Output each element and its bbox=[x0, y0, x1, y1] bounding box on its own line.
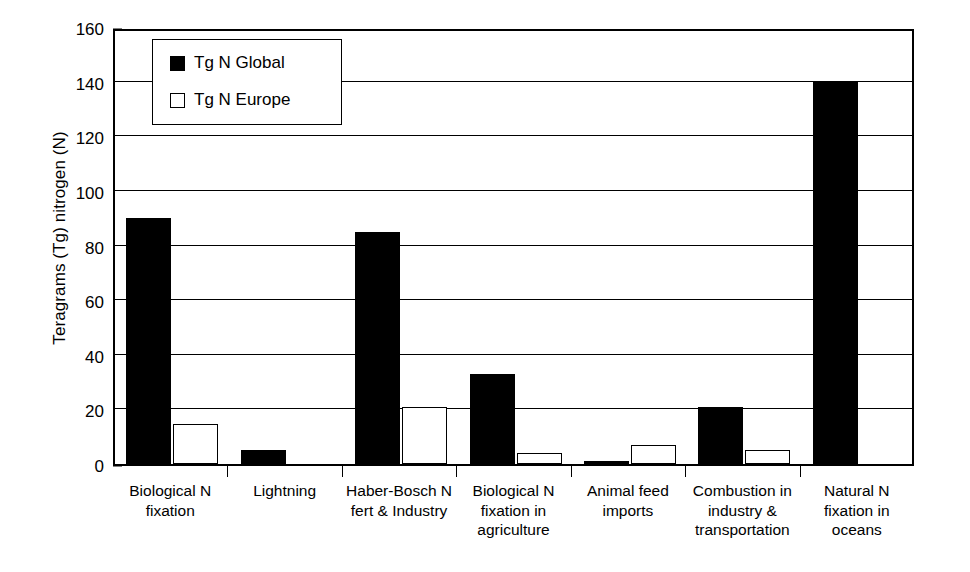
y-tick-label-140: 140 bbox=[44, 75, 104, 92]
legend: Tg N Global Tg N Europe bbox=[152, 39, 342, 125]
x-axis-separator bbox=[342, 466, 343, 477]
bar-global bbox=[584, 461, 629, 464]
bar-global bbox=[126, 218, 171, 464]
legend-item-global: Tg N Global bbox=[170, 53, 285, 73]
x-axis-label: Natural N fixation in oceans bbox=[800, 481, 914, 540]
y-tick-label-40: 40 bbox=[44, 348, 104, 365]
y-tick-label-160: 160 bbox=[44, 21, 104, 38]
y-tick-label-20: 20 bbox=[44, 403, 104, 420]
bar-global bbox=[813, 82, 858, 464]
gridline-120 bbox=[115, 135, 912, 136]
y-tick-label-80: 80 bbox=[44, 239, 104, 256]
x-axis-separator bbox=[227, 466, 228, 477]
y-tick-label-0: 0 bbox=[44, 458, 104, 475]
x-axis-separator bbox=[456, 466, 457, 477]
bar-global bbox=[698, 407, 743, 464]
bar-chart-figure: Teragrams (Tg) nitrogen (N) 020406080100… bbox=[0, 0, 970, 572]
bar-europe bbox=[173, 424, 218, 464]
x-axis-label: Biological N fixation in agriculture bbox=[456, 481, 570, 540]
y-tick-label-120: 120 bbox=[44, 130, 104, 147]
x-axis-label: Animal feed imports bbox=[571, 481, 685, 520]
gridline-60 bbox=[115, 299, 912, 300]
y-tick-label-100: 100 bbox=[44, 184, 104, 201]
gridline-40 bbox=[115, 354, 912, 355]
bar-global bbox=[470, 374, 515, 464]
bar-europe bbox=[631, 445, 676, 464]
x-axis-label: Combustion in industry & transportation bbox=[685, 481, 799, 540]
x-axis-separator bbox=[571, 466, 572, 477]
x-axis-separator bbox=[685, 466, 686, 477]
filled-square-icon bbox=[170, 56, 185, 71]
x-axis-label: Haber-Bosch N fert & Industry bbox=[342, 481, 456, 520]
open-square-icon bbox=[170, 93, 185, 108]
y-tick-label-60: 60 bbox=[44, 294, 104, 311]
x-axis-label: Biological N fixation bbox=[113, 481, 227, 520]
legend-label-global: Tg N Global bbox=[194, 53, 285, 73]
bar-europe bbox=[517, 453, 562, 464]
x-axis-separator bbox=[800, 466, 801, 477]
legend-label-europe: Tg N Europe bbox=[194, 90, 290, 110]
gridline-80 bbox=[115, 245, 912, 246]
gridline-100 bbox=[115, 190, 912, 191]
bar-global bbox=[241, 450, 286, 464]
x-axis-label: Lightning bbox=[227, 481, 341, 501]
legend-item-europe: Tg N Europe bbox=[170, 90, 290, 110]
bar-europe bbox=[402, 407, 447, 464]
bar-global bbox=[355, 232, 400, 464]
bar-europe bbox=[745, 450, 790, 464]
